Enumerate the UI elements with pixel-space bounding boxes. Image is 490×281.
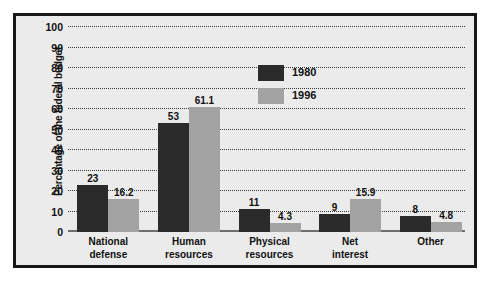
bar-1996-3[interactable]: 15.9: [350, 199, 381, 232]
bar-group: 915.9: [319, 27, 381, 232]
bar-value-label: 4.3: [278, 212, 292, 222]
bar-value-label: 4.8: [439, 211, 453, 221]
y-tick-label: 60: [51, 104, 63, 115]
legend-swatch: [258, 65, 284, 81]
y-tick-label: 80: [51, 63, 63, 74]
y-tick-label: 70: [51, 83, 63, 94]
y-tick-label: 10: [51, 206, 63, 217]
bar-value-label: 53: [168, 112, 179, 122]
category-label: Other: [381, 236, 481, 249]
y-tick-label: 40: [51, 145, 63, 156]
bar-1996-1[interactable]: 61.1: [189, 107, 220, 232]
bar-chart-figure: Percentage of the federal budget 1009080…: [13, 13, 477, 268]
bar-1980-2[interactable]: 11: [239, 209, 270, 232]
bar-1996-2[interactable]: 4.3: [270, 223, 301, 232]
category-label-line: Other: [381, 236, 481, 249]
y-tick-label: 50: [51, 124, 63, 135]
bar-value-label: 15.9: [356, 188, 375, 198]
legend-label: 1980: [292, 67, 316, 78]
bar-1980-4[interactable]: 8: [400, 216, 431, 232]
y-tick-label: 30: [51, 165, 63, 176]
bar-value-label: 8: [412, 205, 418, 215]
bar-1996-0[interactable]: 16.2: [108, 199, 139, 232]
y-tick-label: 90: [51, 42, 63, 53]
legend-label: 1996: [292, 90, 316, 101]
bar-1980-1[interactable]: 53: [158, 123, 189, 232]
legend-item-1980[interactable]: 1980: [258, 63, 344, 82]
bar-value-label: 61.1: [195, 96, 214, 106]
plot-area: 1009080706050403020100 2316.25361.1114.3…: [68, 27, 465, 232]
bar-group: 5361.1: [158, 27, 220, 232]
bar-value-label: 23: [87, 174, 98, 184]
bar-group: 84.8: [400, 27, 462, 232]
bar-1980-3[interactable]: 9: [319, 214, 350, 232]
bar-1980-0[interactable]: 23: [77, 185, 108, 232]
bar-value-label: 9: [332, 203, 338, 213]
bar-value-label: 16.2: [114, 188, 133, 198]
chart-legend: 19801996: [258, 63, 344, 109]
category-label-line: interest: [300, 249, 400, 262]
bar-group: 2316.2: [77, 27, 139, 232]
legend-swatch: [258, 88, 284, 104]
bar-1996-4[interactable]: 4.8: [431, 222, 462, 232]
bars-layer: 2316.25361.1114.3915.984.8: [68, 27, 465, 232]
bar-value-label: 11: [249, 198, 260, 208]
y-tick-label: 100: [45, 22, 63, 33]
y-tick-label: 20: [51, 186, 63, 197]
legend-item-1996[interactable]: 1996: [258, 86, 344, 105]
category-axis: NationaldefenseHumanresourcesPhysicalres…: [68, 236, 465, 266]
bar-group: 114.3: [239, 27, 301, 232]
